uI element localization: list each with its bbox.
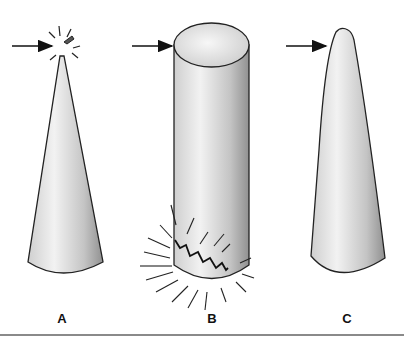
bottom-divider <box>0 334 404 336</box>
panel-label-c: C <box>342 311 351 326</box>
panel-label-a: A <box>57 311 66 326</box>
diagram-canvas <box>0 0 404 340</box>
panel-label-b: B <box>207 311 216 326</box>
panel-c-bullet <box>286 28 385 272</box>
panel-b-cylinder <box>132 23 254 310</box>
fragment-icon <box>64 36 74 44</box>
impact-rays-icon <box>49 26 80 60</box>
panel-a-cone <box>12 26 103 273</box>
